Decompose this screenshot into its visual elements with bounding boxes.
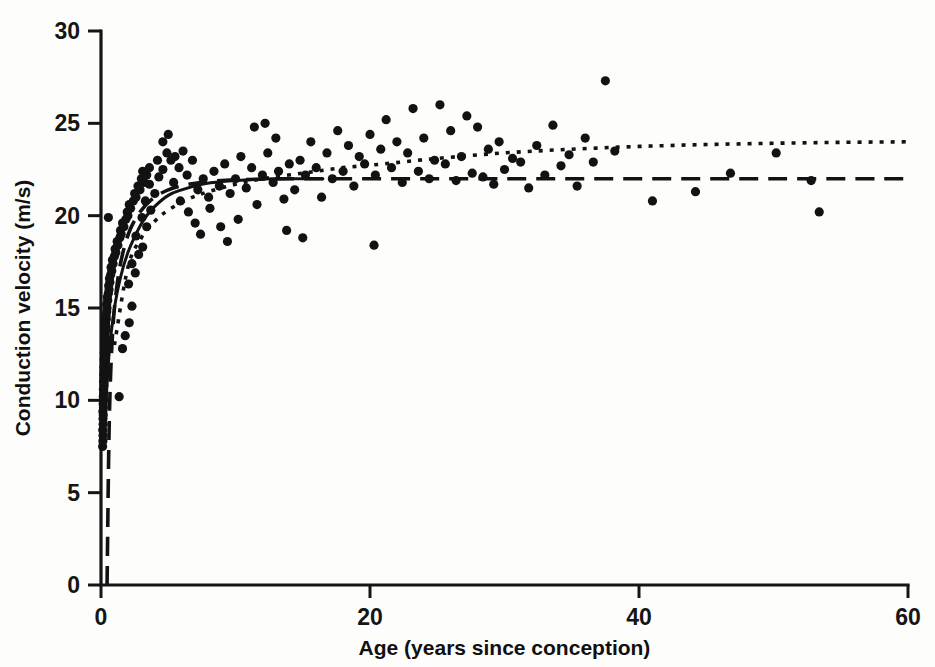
data-point (392, 137, 401, 146)
data-point (124, 279, 133, 288)
data-point (220, 159, 229, 168)
data-point (360, 159, 369, 168)
data-point (158, 137, 167, 146)
data-point (260, 119, 269, 128)
data-point (462, 111, 471, 120)
y-tick-label: 10 (54, 387, 80, 413)
data-point (234, 215, 243, 224)
data-point (349, 182, 358, 191)
data-point (430, 156, 439, 165)
data-point (508, 154, 517, 163)
data-point (204, 193, 213, 202)
y-tick-label: 15 (54, 295, 80, 321)
data-point (333, 126, 342, 135)
data-point (376, 145, 385, 154)
data-point (807, 176, 816, 185)
data-point (648, 196, 657, 205)
data-point (581, 134, 590, 143)
data-point (269, 178, 278, 187)
data-point (223, 237, 232, 246)
data-point (170, 152, 179, 161)
data-point (589, 158, 598, 167)
data-point (398, 178, 407, 187)
data-point (564, 150, 573, 159)
data-point (188, 156, 197, 165)
data-point (115, 392, 124, 401)
data-point (355, 152, 364, 161)
data-point (121, 331, 130, 340)
data-point (184, 207, 193, 216)
x-tick-label: 60 (895, 604, 921, 630)
data-point (312, 163, 321, 172)
data-point (369, 241, 378, 250)
data-point (419, 134, 428, 143)
data-point (532, 141, 541, 150)
data-point (473, 122, 482, 131)
data-point (199, 174, 208, 183)
data-point (435, 100, 444, 109)
figure-container: 0510152025300204060 Age (years since con… (0, 0, 935, 667)
data-point (601, 76, 610, 85)
data-point (548, 121, 557, 130)
data-point (209, 167, 218, 176)
data-point (516, 158, 525, 167)
data-point (414, 167, 423, 176)
x-tick-label: 20 (357, 604, 383, 630)
data-point (301, 170, 310, 179)
data-point (216, 222, 225, 231)
data-point (164, 130, 173, 139)
data-point (252, 200, 261, 209)
data-point (279, 194, 288, 203)
data-point (382, 115, 391, 124)
data-point (387, 163, 396, 172)
data-points-group (98, 76, 824, 451)
data-point (478, 172, 487, 181)
data-point (150, 189, 159, 198)
x-tick-label: 40 (626, 604, 652, 630)
data-point (371, 170, 380, 179)
data-point (290, 185, 299, 194)
data-point (339, 167, 348, 176)
data-point (191, 218, 200, 227)
data-point (451, 176, 460, 185)
data-point (127, 259, 136, 268)
data-point (145, 180, 154, 189)
data-point (182, 170, 191, 179)
data-point (691, 187, 700, 196)
data-point (174, 163, 183, 172)
data-point (408, 104, 417, 113)
data-point (153, 156, 162, 165)
data-point (127, 302, 136, 311)
data-point (573, 182, 582, 191)
axis-lines (101, 31, 908, 585)
y-tick-label: 25 (54, 110, 80, 136)
data-point (176, 196, 185, 205)
data-point (500, 165, 509, 174)
data-point (169, 178, 178, 187)
x-tick-label: 0 (95, 604, 108, 630)
data-point (282, 226, 291, 235)
data-point (193, 185, 202, 194)
data-point (215, 182, 224, 191)
curves-group (105, 142, 908, 585)
data-point (104, 213, 113, 222)
data-point (815, 207, 824, 216)
data-point (556, 161, 565, 170)
solid-fit-curve (105, 179, 323, 419)
data-point (125, 318, 134, 327)
data-point (524, 183, 533, 192)
data-point (317, 193, 326, 202)
data-point (306, 137, 315, 146)
data-point (263, 148, 272, 157)
y-tick-label: 30 (54, 18, 80, 44)
data-point (365, 130, 374, 139)
dotted-fit-curve (114, 142, 908, 345)
data-point (142, 222, 151, 231)
data-point (242, 183, 251, 192)
scatter-plot: 0510152025300204060 Age (years since con… (0, 0, 935, 667)
data-point (250, 122, 259, 131)
data-point (158, 165, 167, 174)
y-axis-title: Conduction velocity (m/s) (11, 180, 34, 437)
data-point (441, 159, 450, 168)
data-point (145, 163, 154, 172)
